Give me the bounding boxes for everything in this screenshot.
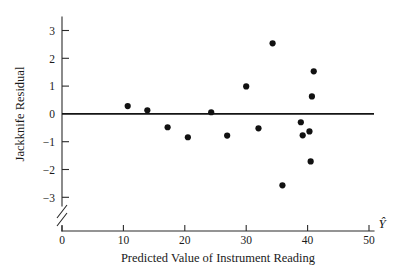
x-tick-label-50: 50 xyxy=(363,234,375,246)
data-point xyxy=(208,109,214,115)
data-point xyxy=(311,68,317,74)
data-point xyxy=(306,128,312,134)
x-tick-label-10: 10 xyxy=(118,234,130,246)
data-point xyxy=(165,124,171,130)
x-axis-variable-symbol: Ŷ xyxy=(378,216,387,231)
data-point xyxy=(185,134,191,140)
residual-scatter-figure: 3 2 1 0 −1 −2 −3 0 10 20 30 40 50 Ŷ Pre… xyxy=(0,0,404,274)
x-tick-label-20: 20 xyxy=(179,234,191,246)
y-tick-label-2: 2 xyxy=(49,53,55,65)
y-tick-label-neg2: −2 xyxy=(43,164,55,176)
data-point xyxy=(255,125,261,131)
data-point xyxy=(298,119,304,125)
y-tick-label-0: 0 xyxy=(49,108,55,120)
data-point xyxy=(243,83,249,89)
data-point xyxy=(309,93,315,99)
y-axis-break-icon xyxy=(57,205,67,226)
y-tick-label-3: 3 xyxy=(49,25,55,37)
x-tick-label-40: 40 xyxy=(302,234,314,246)
data-point xyxy=(270,40,276,46)
scatter-plot-canvas: 3 2 1 0 −1 −2 −3 0 10 20 30 40 50 Ŷ Pre… xyxy=(0,0,404,274)
x-axis-title: Predicted Value of Instrument Reading xyxy=(121,251,316,265)
y-tick-label-1: 1 xyxy=(49,80,55,92)
data-point xyxy=(300,132,306,138)
x-tick-marks xyxy=(62,225,369,231)
y-tick-label-neg1: −1 xyxy=(43,136,55,148)
y-axis-title: Jackknife Residual xyxy=(13,66,27,161)
data-point xyxy=(224,132,230,138)
data-point xyxy=(279,182,285,188)
x-tick-label-30: 30 xyxy=(240,234,252,246)
data-point xyxy=(144,107,150,113)
y-tick-label-neg3: −3 xyxy=(43,192,55,204)
x-tick-label-0: 0 xyxy=(59,234,65,246)
data-point xyxy=(308,158,314,164)
data-point xyxy=(125,103,131,109)
